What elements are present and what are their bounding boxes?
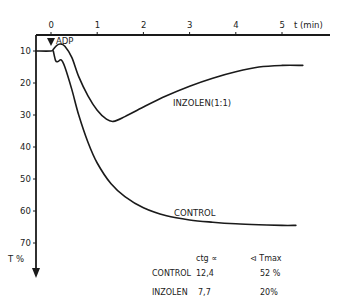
x-tick-label: 2 — [141, 20, 146, 30]
y-tick-label: 30 — [20, 110, 31, 120]
x-tick-label: 0 — [49, 20, 54, 30]
y-tick-label: 20 — [20, 78, 31, 88]
table-row-inzolen-tmax: 20% — [260, 288, 278, 297]
table-header-tmax: ⊲ Tmax — [250, 254, 282, 263]
y-tick-label: 60 — [20, 206, 31, 216]
series-line-inzolen-1-1 — [36, 44, 303, 122]
series-label-control: CONTROL — [174, 208, 216, 218]
y-ticks: 10203040506070 — [20, 46, 36, 248]
y-axis-arrowhead — [32, 268, 40, 278]
table-header-ctg: ctg ∝ — [196, 254, 217, 263]
series-curves — [36, 44, 303, 225]
platelet-aggregation-chart: 012345 10203040506070 t (min) T % ADP IN… — [0, 0, 345, 306]
table-row-control-name: CONTROL — [152, 269, 192, 278]
y-axis-label: T % — [7, 254, 24, 264]
x-tick-label: 1 — [95, 20, 100, 30]
table-row-control-ctg: 12,4 — [196, 269, 214, 278]
x-ticks: 012345 — [49, 20, 285, 35]
y-tick-label: 40 — [20, 142, 31, 152]
table-row-inzolen-name: INZOLEN — [152, 288, 188, 297]
x-tick-label: 5 — [280, 20, 285, 30]
x-tick-label: 3 — [187, 20, 192, 30]
series-line-control — [53, 51, 296, 225]
y-tick-label: 70 — [20, 238, 31, 248]
y-tick-label: 10 — [20, 46, 31, 56]
adp-arrow-icon — [47, 38, 55, 46]
series-label-inzolen: INZOLEN(1:1) — [173, 98, 231, 108]
table-row-control-tmax: 52 % — [260, 269, 281, 278]
x-axis-label: t (min) — [294, 20, 323, 30]
summary-table: ctg ∝ ⊲ Tmax CONTROL 12,4 52 % INZOLEN 7… — [152, 254, 282, 297]
y-tick-label: 50 — [20, 174, 31, 184]
table-row-inzolen-ctg: 7,7 — [198, 288, 211, 297]
x-tick-label: 4 — [233, 20, 238, 30]
